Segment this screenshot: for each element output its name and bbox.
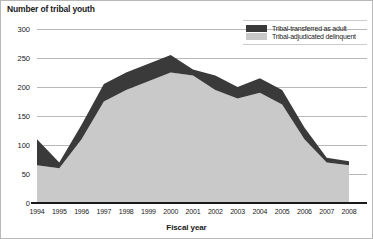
x-axis-tick-label: 1994 [30,208,45,215]
x-axis-tick-label: 2007 [319,208,334,215]
chart-legend: Tribal-transferred as adult Tribal-adjud… [243,20,367,45]
x-axis-tick-label: 2002 [208,208,223,215]
x-axis-tick-label: 2001 [186,208,201,215]
legend-label-transferred: Tribal-transferred as adult [272,25,347,32]
area-series-delinquent [37,73,349,204]
y-axis-tick-label: 50 [22,170,30,179]
x-axis-tick-label: 1997 [96,208,111,215]
area-series-group [37,55,349,203]
y-axis-tick-label: 200 [17,83,30,92]
legend-item-transferred: Tribal-transferred as adult [246,25,365,32]
x-axis-tick-label: 2004 [252,208,267,215]
x-axis-tick-label: 2005 [275,208,290,215]
x-axis-title: Fiscal year [1,223,372,232]
x-axis-tick-labels: 1994199519961997199819992000200120022003… [30,208,357,215]
x-axis-tick-label: 2008 [342,208,357,215]
x-axis-tick-label: 1995 [52,208,67,215]
x-axis-tick-label: 2006 [297,208,312,215]
y-axis-tick-label: 250 [17,54,30,63]
y-axis-tick-label: 100 [17,141,30,150]
y-axis-tick-label: 0 [26,199,30,208]
x-axis-tick-label: 2000 [163,208,178,215]
legend-item-delinquent: Tribal-adjudicated delinquent [246,33,365,40]
y-axis-tick-label: 300 [17,25,30,34]
y-axis-tick-label: 150 [17,112,30,121]
x-axis-tick-label: 1999 [141,208,156,215]
x-axis-tick-label: 1996 [74,208,89,215]
legend-swatch-transferred [246,25,267,32]
y-axis-tick-labels: 050100150200250300 [17,25,30,208]
x-axis-tick-label: 1998 [119,208,134,215]
legend-label-delinquent: Tribal-adjudicated delinquent [272,33,356,40]
legend-swatch-delinquent [246,33,267,40]
chart-figure: Number of tribal youth 05010015020025030… [0,0,373,239]
x-axis-tick-label: 2003 [230,208,245,215]
